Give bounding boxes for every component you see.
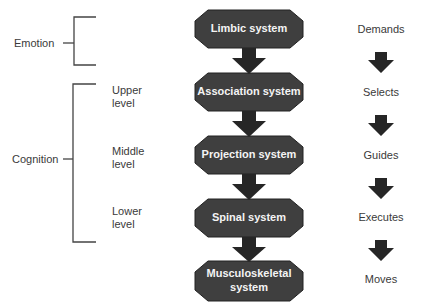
spinal-system-label-wrap: Spinal system	[195, 199, 303, 237]
arrow-down-icon	[368, 115, 394, 136]
arrow-down-icon	[232, 237, 266, 262]
level-line: level	[112, 97, 142, 110]
cognition-bracket	[63, 84, 96, 242]
level-line: level	[112, 158, 144, 171]
musculoskeletal-label-line2: system	[195, 281, 303, 294]
level-line: Middle	[112, 145, 144, 158]
projection-system-label: Projection system	[195, 148, 303, 161]
level-line: Upper	[112, 84, 142, 97]
limbic-system-label-wrap: Limbic system	[195, 10, 303, 48]
projection-system-label-wrap: Projection system	[195, 136, 303, 174]
verb-selects: Selects	[350, 86, 412, 99]
limbic-system-label: Limbic system	[195, 22, 303, 35]
lower-level-label: Lower level	[112, 205, 142, 231]
emotion-label: Emotion	[14, 37, 54, 50]
musculoskeletal-label-line1: Musculoskeletal	[195, 267, 303, 280]
verb-guides: Guides	[350, 149, 412, 162]
verb-demands: Demands	[350, 23, 412, 36]
upper-level-label: Upper level	[112, 84, 142, 110]
arrow-down-icon	[368, 178, 394, 199]
verb-executes: Executes	[350, 211, 412, 224]
emotion-bracket	[63, 17, 96, 65]
arrow-down-icon	[368, 240, 394, 261]
arrow-down-icon	[232, 111, 266, 137]
association-system-label-wrap: Association system	[195, 73, 303, 111]
cognition-label: Cognition	[12, 153, 58, 166]
arrow-down-icon	[368, 52, 394, 73]
arrow-down-icon	[232, 48, 266, 74]
level-line: level	[112, 218, 142, 231]
middle-level-label: Middle level	[112, 145, 144, 171]
verb-moves: Moves	[350, 273, 412, 286]
association-system-label: Association system	[195, 85, 303, 98]
arrow-down-icon	[232, 174, 266, 200]
level-line: Lower	[112, 205, 142, 218]
musculoskeletal-system-label-wrap: Musculoskeletal system	[195, 261, 303, 301]
spinal-system-label: Spinal system	[195, 211, 303, 224]
